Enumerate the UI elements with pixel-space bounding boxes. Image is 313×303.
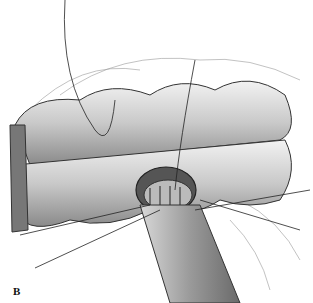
panel-label: B bbox=[13, 285, 20, 297]
surgical-illustration bbox=[0, 0, 313, 303]
